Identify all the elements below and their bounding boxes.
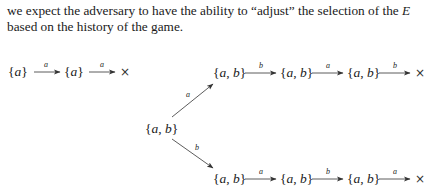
terminal-cross-top: × <box>415 65 425 81</box>
terminal-cross-row-a: × <box>120 64 130 80</box>
node-row-a-1: {a} <box>8 64 28 80</box>
terminal-cross-bottom: × <box>415 171 425 187</box>
edge-label-row-a-1: a <box>44 60 48 70</box>
edge-label-top-2: a <box>326 61 330 71</box>
edge-label-bottom-3: a <box>393 167 397 177</box>
node-top-3: {a, b} <box>347 65 380 81</box>
edge-label-row-a-2: a <box>100 60 104 70</box>
edge-label-bottom-1: a <box>259 167 263 177</box>
node-bottom-3: {a, b} <box>347 171 380 187</box>
node-bottom-1: {a, b} <box>213 171 246 187</box>
edge-label-top-1: b <box>259 61 263 71</box>
arrow-root-to-bottom <box>172 139 213 168</box>
edge-label-top-3: b <box>393 61 397 71</box>
edge-label-bottom-2: b <box>326 167 330 177</box>
node-top-1: {a, b} <box>213 65 246 81</box>
edge-label-root-top: a <box>186 90 190 100</box>
node-root: {a, b} <box>145 121 178 137</box>
node-top-2: {a, b} <box>280 65 313 81</box>
node-bottom-2: {a, b} <box>280 171 313 187</box>
diagram-arrows <box>0 0 436 195</box>
edge-label-root-bottom: b <box>195 143 199 153</box>
node-row-a-2: {a} <box>64 64 84 80</box>
arrow-root-to-top <box>172 84 213 117</box>
